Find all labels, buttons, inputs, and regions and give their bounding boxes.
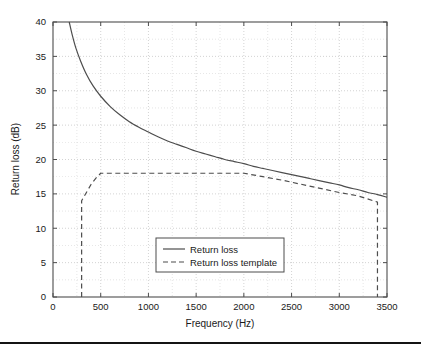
x-tick-label: 2500 <box>281 301 302 312</box>
x-tick-label: 2000 <box>233 301 254 312</box>
chart-legend: Return loss Return loss template <box>156 238 284 272</box>
y-axis-title: Return loss (dB) <box>10 123 21 195</box>
legend-label-return-loss-template: Return loss template <box>190 257 277 268</box>
y-tick-label: 20 <box>35 154 46 165</box>
y-tick-label: 30 <box>35 85 46 96</box>
x-tick-label: 3500 <box>376 301 397 312</box>
footer-rule <box>0 342 421 344</box>
y-tick-label: 25 <box>35 120 46 131</box>
x-tick-label: 1500 <box>186 301 207 312</box>
y-tick-label: 40 <box>35 16 46 27</box>
figure-container: 0500100015002000250030003500 05101520253… <box>0 0 421 354</box>
x-tick-label: 0 <box>50 301 55 312</box>
y-axis-tick-labels: 0510152025303540 <box>35 16 46 302</box>
y-tick-label: 0 <box>41 291 46 302</box>
x-tick-label: 1000 <box>138 301 159 312</box>
y-tick-label: 35 <box>35 51 46 62</box>
legend-label-return-loss: Return loss <box>190 244 238 255</box>
x-tick-label: 3000 <box>329 301 350 312</box>
y-tick-label: 10 <box>35 223 46 234</box>
y-tick-label: 5 <box>41 257 46 268</box>
x-tick-label: 500 <box>93 301 109 312</box>
x-axis-tick-labels: 0500100015002000250030003500 <box>50 301 397 312</box>
return-loss-chart: 0500100015002000250030003500 05101520253… <box>0 0 421 354</box>
y-tick-label: 15 <box>35 188 46 199</box>
x-axis-title: Frequency (Hz) <box>186 318 255 329</box>
